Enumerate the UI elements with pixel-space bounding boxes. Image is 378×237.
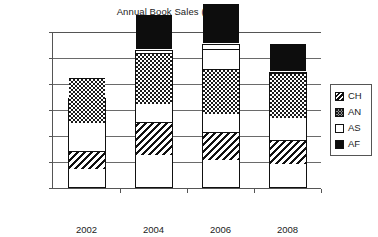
swatch-af-black-icon xyxy=(335,140,344,149)
swatch-an-dots-icon xyxy=(335,108,344,117)
gridline-60 xyxy=(53,32,321,33)
x-tick-label-2004: 2004 xyxy=(124,224,184,235)
bar-2006[interactable] xyxy=(202,44,240,188)
bar-2004[interactable] xyxy=(135,50,173,188)
legend-label-as: AS xyxy=(348,123,361,133)
legend-label-af: AF xyxy=(348,139,360,149)
bar-segment-2008-AF[interactable] xyxy=(270,44,306,72)
y-tick-mark-10 xyxy=(49,162,53,163)
x-tick-label-2002: 2002 xyxy=(57,224,117,235)
legend-item-af[interactable]: AF xyxy=(335,136,368,152)
bar-segment-2006-AF[interactable] xyxy=(203,4,239,43)
bar-segment-2004-AF[interactable] xyxy=(136,15,172,49)
bar-segment-2002-CH[interactable] xyxy=(69,151,105,169)
chart-container: Annual Book Sales (£) Tens of thousands … xyxy=(0,0,378,237)
y-tick-mark-50 xyxy=(49,58,53,59)
y-tick-mark-20 xyxy=(49,136,53,137)
legend-item-ch[interactable]: CH xyxy=(335,88,368,104)
x-tick-mark-0 xyxy=(120,189,121,193)
x-tick-label-2006: 2006 xyxy=(191,224,251,235)
y-tick-mark-60 xyxy=(49,32,53,33)
legend-label-an: AN xyxy=(348,107,361,117)
bar-segment-2008-CH[interactable] xyxy=(270,140,306,163)
legend-item-an[interactable]: AN xyxy=(335,104,368,120)
swatch-ch-hatch-icon xyxy=(335,92,344,101)
plot-area: 01020304050602002200420062008 xyxy=(52,32,321,189)
bar-2008[interactable] xyxy=(269,72,307,188)
y-tick-mark-30 xyxy=(49,110,53,111)
bar-segment-2008-AN[interactable] xyxy=(270,73,306,119)
bar-segment-2006-CH[interactable] xyxy=(203,132,239,159)
bar-segment-2006-AN[interactable] xyxy=(203,69,239,115)
legend-item-as[interactable]: AS xyxy=(335,120,368,136)
chart-legend: CHANASAF xyxy=(330,84,372,156)
bar-segment-2002-AN[interactable] xyxy=(69,78,105,124)
bar-segment-2004-CH[interactable] xyxy=(136,122,172,155)
legend-label-ch: CH xyxy=(348,91,362,101)
x-tick-label-2008: 2008 xyxy=(258,224,318,235)
y-tick-mark-0 xyxy=(49,188,53,189)
x-tick-mark-2 xyxy=(254,189,255,193)
swatch-as-white-icon xyxy=(335,124,344,133)
x-tick-mark-1 xyxy=(187,189,188,193)
y-tick-mark-40 xyxy=(49,84,53,85)
bar-segment-2004-AN[interactable] xyxy=(136,53,172,104)
bar-2002[interactable] xyxy=(68,98,106,188)
x-tick-mark-3 xyxy=(321,189,322,193)
